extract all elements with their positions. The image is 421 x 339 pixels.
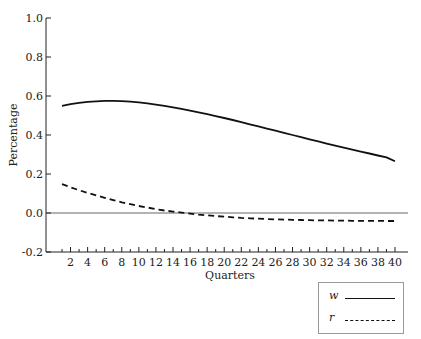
series-group [62, 101, 395, 221]
y-tick-label: 1.0 [26, 12, 44, 25]
x-axis-title: Quarters [205, 269, 255, 282]
axes: -0.20.00.20.40.60.81.0246810121416182022… [22, 12, 408, 269]
legend-label-w: w [329, 289, 338, 302]
y-tick-label: -0.2 [22, 246, 43, 259]
x-tick-label: 34 [337, 256, 351, 269]
legend-item-w: w [329, 291, 401, 305]
legend-label-r: r [329, 311, 334, 324]
x-tick-label: 28 [286, 256, 300, 269]
x-tick-label: 36 [354, 256, 368, 269]
x-tick-label: 38 [371, 256, 385, 269]
series-line-r [62, 184, 395, 221]
x-tick-label: 40 [388, 256, 402, 269]
series-line-w [62, 101, 395, 161]
x-tick-label: 18 [200, 256, 214, 269]
x-tick-label: 32 [320, 256, 334, 269]
y-tick-label: 0.0 [26, 207, 44, 220]
y-tick-label: 0.6 [26, 90, 44, 103]
x-tick-label: 30 [303, 256, 317, 269]
x-tick-label: 20 [217, 256, 231, 269]
legend-item-r: r [329, 313, 401, 327]
x-tick-label: 22 [234, 256, 248, 269]
solid-line-swatch [345, 298, 395, 299]
x-tick-label: 26 [268, 256, 282, 269]
x-tick-label: 12 [149, 256, 163, 269]
x-tick-label: 4 [84, 256, 91, 269]
y-axis-title: Percentage [7, 104, 20, 167]
y-tick-label: 0.2 [26, 168, 44, 181]
x-tick-label: 8 [118, 256, 125, 269]
x-tick-label: 16 [183, 256, 197, 269]
y-tick-label: 0.4 [26, 129, 44, 142]
x-tick-label: 2 [67, 256, 74, 269]
x-tick-label: 24 [251, 256, 265, 269]
dashed-line-swatch [345, 320, 395, 321]
x-tick-label: 6 [101, 256, 108, 269]
x-tick-label: 14 [166, 256, 180, 269]
y-tick-label: 0.8 [26, 51, 44, 64]
x-tick-label: 10 [132, 256, 146, 269]
legend: w r [318, 282, 404, 334]
